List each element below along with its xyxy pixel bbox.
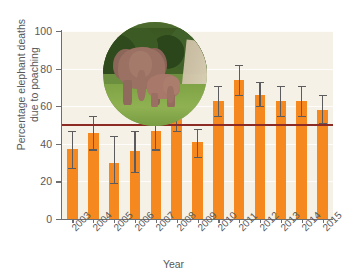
error-bar-cap-2013: [277, 116, 285, 117]
y-tick-label: 20: [0, 176, 58, 187]
error-bar-cap-2011: [235, 95, 243, 96]
error-bar-cap-2012: [256, 106, 264, 107]
bar-2014: [296, 101, 307, 219]
error-bar-cap-2006: [131, 131, 139, 132]
error-bar-cap-2013: [277, 86, 285, 87]
y-tick-label: 0: [0, 214, 58, 225]
error-bar-2003: [72, 131, 73, 169]
error-bar-cap-2008: [173, 131, 181, 132]
error-bar-cap-2009: [194, 129, 202, 130]
bar-2010: [213, 101, 224, 219]
adult-elephant-trunk: [137, 70, 145, 101]
error-bar-cap-2010: [214, 116, 222, 117]
error-bar-2015: [322, 95, 323, 123]
error-bar-cap-2004: [89, 149, 97, 150]
error-bar-cap-2007: [152, 149, 160, 150]
error-bar-2012: [259, 82, 260, 106]
error-bar-2005: [114, 136, 115, 183]
adult-elephant-leg: [123, 80, 132, 105]
error-bar-2009: [197, 129, 198, 157]
y-axis-title: Percentage elephant deaths due to poachi…: [15, 10, 40, 160]
error-bar-cap-2014: [298, 86, 306, 87]
error-bar-cap-2003: [68, 168, 76, 169]
error-bar-2010: [218, 86, 219, 116]
error-bar-cap-2012: [256, 82, 264, 83]
error-bar-cap-2010: [214, 86, 222, 87]
error-bar-cap-2015: [319, 95, 327, 96]
error-bar-cap-2011: [235, 65, 243, 66]
bar-2011: [234, 80, 245, 219]
error-bar-2013: [280, 86, 281, 116]
calf-elephant-leg: [151, 93, 158, 108]
error-bar-cap-2014: [298, 116, 306, 117]
error-bar-cap-2005: [110, 183, 118, 184]
bar-2013: [276, 101, 287, 219]
bar-2015: [317, 110, 328, 219]
error-bar-cap-2006: [131, 172, 139, 173]
error-bar-cap-2004: [89, 116, 97, 117]
bar-2012: [255, 95, 266, 219]
error-bar-2014: [301, 86, 302, 116]
error-bar-2004: [93, 116, 94, 150]
elephant-photo-inset: [103, 22, 207, 126]
x-axis-title: Year: [0, 258, 347, 270]
error-bar-2011: [239, 65, 240, 95]
y-axis-line: [61, 30, 62, 220]
error-bar-cap-2005: [110, 136, 118, 137]
error-bar-cap-2009: [194, 157, 202, 158]
calf-elephant-trunk: [167, 86, 173, 103]
elephant-poaching-bar-chart: 020406080100 Percentage elephant deaths …: [0, 0, 347, 277]
error-bar-cap-2003: [68, 131, 76, 132]
error-bar-2006: [134, 131, 135, 172]
